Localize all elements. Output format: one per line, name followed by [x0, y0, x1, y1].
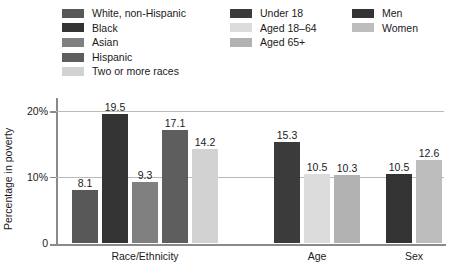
legend-swatch-icon [352, 23, 374, 32]
legend-item-label: Asian [92, 37, 118, 48]
bar-two-or-more-races[interactable]: 14.2 [192, 149, 218, 243]
poverty-bar-chart: White, non-HispanicBlackAsianHispanicTwo… [0, 0, 456, 278]
bar-value-label: 12.6 [419, 147, 439, 159]
bar-value-label: 15.3 [277, 129, 297, 141]
legend-item-label: Men [382, 8, 402, 19]
bar-men[interactable]: 10.5 [386, 174, 412, 243]
bar-value-label: 10.5 [389, 161, 409, 173]
legend-item-label: White, non-Hispanic [92, 8, 186, 19]
legend-item-label: Aged 65+ [260, 37, 305, 48]
x-axis-label-age: Age [274, 250, 360, 262]
bar-value-label: 10.3 [337, 162, 357, 174]
legend-swatch-icon [352, 9, 374, 18]
legend-swatch-icon [230, 9, 252, 18]
bar-value-label: 8.1 [78, 177, 93, 189]
legend-item-label: Aged 18–64 [260, 23, 317, 34]
bar-aged-18-64[interactable]: 10.5 [304, 174, 330, 243]
legend-swatch-icon [62, 23, 84, 32]
legend-item-hispanic[interactable]: Hispanic [62, 50, 186, 65]
legend-column-race-ethnicity: White, non-HispanicBlackAsianHispanicTwo… [62, 6, 186, 79]
y-tick-10 [50, 177, 56, 178]
legend-item-black[interactable]: Black [62, 21, 186, 36]
legend-item-label: Black [92, 23, 118, 34]
legend-item-aged-65[interactable]: Aged 65+ [230, 35, 317, 50]
legend-item-aged-18-64[interactable]: Aged 18–64 [230, 21, 317, 36]
x-axis-line [50, 244, 446, 246]
x-axis-label-sex: Sex [386, 250, 442, 262]
bar-hispanic[interactable]: 17.1 [162, 130, 188, 243]
bar-aged-65[interactable]: 10.3 [334, 175, 360, 243]
legend-item-label: Women [382, 23, 418, 34]
bar-value-label: 14.2 [195, 136, 215, 148]
legend-item-women[interactable]: Women [352, 21, 418, 36]
legend-swatch-icon [230, 38, 252, 47]
bar-women[interactable]: 12.6 [416, 160, 442, 243]
legend-item-under-18[interactable]: Under 18 [230, 6, 317, 21]
legend-swatch-icon [62, 38, 84, 47]
bar-value-label: 9.3 [138, 169, 153, 181]
bar-value-label: 10.5 [307, 161, 327, 173]
bar-under-18[interactable]: 15.3 [274, 142, 300, 243]
x-axis-label-race-ethnicity: Race/Ethnicity [72, 250, 218, 262]
y-tick-label-0: 0 [10, 237, 48, 249]
bar-value-label: 19.5 [105, 101, 125, 113]
legend-swatch-icon [230, 23, 252, 32]
legend-item-label: Two or more races [92, 66, 179, 77]
chart-legend: White, non-HispanicBlackAsianHispanicTwo… [0, 0, 456, 86]
bar-black[interactable]: 19.5 [102, 114, 128, 243]
y-tick-20 [50, 111, 56, 112]
legend-item-white-non-hispanic[interactable]: White, non-Hispanic [62, 6, 186, 21]
legend-column-sex: MenWomen [352, 6, 418, 35]
bar-asian[interactable]: 9.3 [132, 182, 158, 243]
y-tick-label-10pct: 10% [10, 171, 48, 183]
bar-white-non-hispanic[interactable]: 8.1 [72, 190, 98, 243]
legend-item-label: Under 18 [260, 8, 303, 19]
plot-area: Percentage in poverty 8.119.59.317.114.2… [56, 98, 444, 243]
y-tick-label-20pct: 20% [10, 105, 48, 117]
legend-swatch-icon [62, 9, 84, 18]
legend-item-men[interactable]: Men [352, 6, 418, 21]
legend-column-age: Under 18Aged 18–64Aged 65+ [230, 6, 317, 50]
bar-value-label: 17.1 [165, 117, 185, 129]
legend-swatch-icon [62, 53, 84, 62]
legend-item-two-or-more-races[interactable]: Two or more races [62, 64, 186, 79]
legend-item-label: Hispanic [92, 52, 132, 63]
legend-item-asian[interactable]: Asian [62, 35, 186, 50]
legend-swatch-icon [62, 67, 84, 76]
